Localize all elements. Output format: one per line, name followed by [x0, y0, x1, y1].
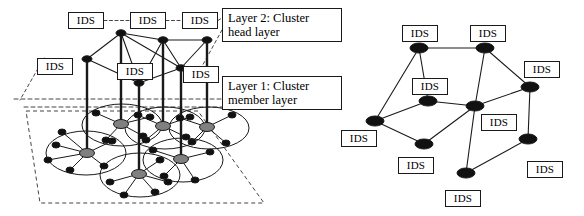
ids-label-left-ids-top-1: IDS	[68, 12, 104, 29]
member-node-cluster-5-3	[191, 177, 199, 183]
member-node-cluster-2-1	[92, 110, 100, 116]
right-node-r4	[466, 101, 484, 111]
member-node-cluster-1-4	[100, 163, 108, 169]
member-node-cluster-4-2	[142, 137, 150, 143]
member-node-cluster-5-1	[149, 147, 157, 153]
right-node-r2	[476, 43, 494, 53]
cluster-member-plane	[26, 111, 264, 203]
member-node-cluster-3-1	[106, 179, 114, 185]
cluster-head-node-cluster-4	[156, 122, 171, 131]
layer2-node-ch-b	[158, 37, 168, 43]
cluster-head-edge-3	[87, 33, 121, 59]
right-edge-8	[475, 87, 530, 106]
right-node-r8	[519, 134, 537, 144]
right-node-r5	[521, 82, 539, 92]
ids-label-left-ids-top-3: IDS	[182, 12, 218, 29]
ids-label-left-ids-west: IDS	[37, 58, 73, 75]
member-node-cluster-3-3	[151, 189, 159, 195]
ids-label-right-ids-6: IDS	[341, 130, 377, 147]
left-ground-plane-group	[26, 111, 264, 203]
right-edge-group	[375, 48, 530, 173]
cluster-head-node-cluster-3	[132, 170, 147, 179]
ids-label-left-ids-east: IDS	[183, 66, 219, 83]
right-edge-10	[466, 106, 475, 173]
member-node-cluster-4-4	[186, 114, 194, 120]
ids-label-right-ids-1: IDS	[402, 25, 438, 42]
member-node-cluster-4-1	[134, 112, 142, 118]
member-node-cluster-6-2	[188, 139, 196, 145]
right-node-r6	[366, 116, 384, 126]
right-node-r3	[419, 96, 437, 106]
layer2-node-ch-c	[202, 37, 212, 43]
member-node-cluster-3-2	[120, 192, 128, 198]
ids-label-right-ids-3: IDS	[412, 78, 448, 95]
callout-pointer-2	[200, 30, 222, 70]
member-node-cluster-2-4	[146, 114, 154, 120]
ids-label-right-ids-4: IDS	[524, 61, 560, 78]
right-edge-13	[466, 139, 528, 173]
right-edge-4	[475, 48, 485, 106]
ids-label-right-ids-5: IDS	[481, 114, 517, 131]
member-node-cluster-2-2	[102, 137, 110, 143]
layer2-node-ch-f	[134, 80, 144, 86]
member-node-cluster-6-4	[228, 112, 236, 118]
member-node-cluster-4-3	[182, 134, 190, 140]
member-node-cluster-1-3	[66, 167, 74, 173]
member-node-cluster-1-1	[52, 142, 60, 148]
ids-label-left-ids-top-2: IDS	[130, 12, 166, 29]
figure-root: IDSIDSIDSIDSIDSIDSIDSIDSIDSIDSIDSIDSIDSI…	[0, 0, 584, 216]
ids-label-right-ids-9: IDS	[445, 190, 481, 207]
member-node-cluster-3-5	[156, 157, 164, 163]
cluster-head-node-cluster-5	[174, 155, 189, 164]
member-node-cluster-1-6	[58, 129, 66, 135]
right-node-r9	[457, 168, 475, 178]
cluster-head-node-cluster-1	[80, 149, 95, 158]
member-node-cluster-1-2	[44, 157, 52, 163]
ids-label-right-ids-2: IDS	[470, 25, 506, 42]
layer2-node-ch-a	[116, 30, 126, 36]
layer2-node-ch-d	[82, 56, 92, 62]
ids-label-right-ids-7: IDS	[398, 157, 434, 174]
right-node-r7	[415, 139, 433, 149]
member-node-cluster-5-4	[206, 149, 214, 155]
cluster-head-node-cluster-2	[114, 120, 129, 129]
right-node-r1	[410, 43, 428, 53]
layer-caption-layer2: Layer 2: Cluster head layer	[222, 8, 342, 42]
cluster-head-node-cluster-6	[200, 123, 215, 132]
right-node-group	[366, 43, 539, 178]
member-node-cluster-6-3	[222, 140, 230, 146]
cluster-head-edge-7	[163, 40, 181, 68]
ids-label-left-ids-mid: IDS	[117, 63, 153, 80]
member-node-cluster-5-2	[160, 173, 168, 179]
right-edge-11	[528, 87, 530, 139]
ids-label-right-ids-8: IDS	[527, 161, 563, 178]
member-node-cluster-3-4	[164, 179, 172, 185]
right-edge-9	[424, 106, 475, 144]
layer-caption-layer1: Layer 1: Cluster member layer	[222, 76, 342, 110]
member-node-cluster-6-1	[176, 115, 184, 121]
